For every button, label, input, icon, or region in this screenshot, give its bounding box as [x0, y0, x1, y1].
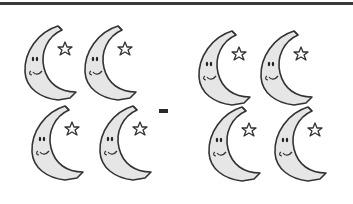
moon-left-1 [18, 22, 80, 102]
crescent-moon-with-star-icon [254, 27, 316, 107]
crescent-moon-with-star-icon [268, 103, 330, 183]
crescent-moon-with-star-icon [78, 22, 140, 102]
minus-sign: - [159, 109, 168, 113]
crescent-moon-with-star-icon [192, 27, 254, 107]
crescent-moon-with-star-icon [202, 103, 264, 183]
moon-right-1 [192, 27, 254, 107]
moon-left-2 [78, 22, 140, 102]
moon-left-4 [93, 102, 155, 182]
moon-right-4 [268, 103, 330, 183]
crescent-moon-with-star-icon [18, 22, 80, 102]
crescent-moon-with-star-icon [25, 102, 87, 182]
crescent-moon-with-star-icon [93, 102, 155, 182]
moon-left-3 [25, 102, 87, 182]
moon-right-2 [254, 27, 316, 107]
moon-right-3 [202, 103, 264, 183]
top-border-rule [0, 2, 353, 5]
